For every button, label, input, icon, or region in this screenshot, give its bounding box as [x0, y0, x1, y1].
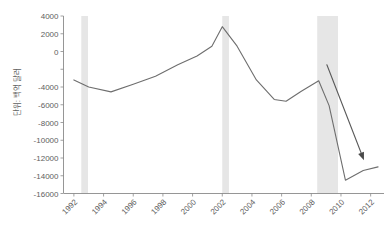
- recession-band: [317, 16, 338, 194]
- y-axis-tick-label: 2000: [41, 30, 59, 39]
- y-axis-title: 단위: 백억 달러: [12, 68, 22, 116]
- y-axis-tick-label: 0: [54, 48, 59, 57]
- chart-container: 400020000-4000-6000-8000-10000-12000-140…: [0, 0, 386, 230]
- x-axis-tick-label: 2010: [327, 197, 346, 216]
- x-axis-tick-label: 2000: [179, 197, 198, 216]
- y-axis-tick-label: -12000: [34, 154, 59, 163]
- x-axis-tick-label: 1996: [120, 197, 139, 216]
- recession-band: [222, 16, 229, 194]
- y-axis-tick-label: -4000: [38, 83, 59, 92]
- y-axis-tick-label: -14000: [34, 172, 59, 181]
- x-axis-tick-label: 2004: [238, 197, 257, 216]
- x-axis-tick-label: 1992: [60, 197, 79, 216]
- y-axis-tick-label: -6000: [38, 101, 59, 110]
- recession-band: [81, 16, 88, 194]
- x-axis-tick-label: 2006: [268, 197, 287, 216]
- x-axis-tick-label: 2012: [357, 197, 376, 216]
- y-axis-tick-label: -10000: [34, 136, 59, 145]
- y-axis-tick-label: 4000: [41, 12, 59, 21]
- y-axis: 400020000-4000-6000-8000-10000-12000-140…: [34, 12, 64, 199]
- y-axis-tick-label: -8000: [38, 119, 59, 128]
- x-axis-tick-label: 2002: [209, 197, 228, 216]
- recession-bands-group: [81, 16, 338, 194]
- y-axis-title-group: 단위: 백억 달러: [12, 68, 22, 116]
- x-axis-tick-label: 1994: [90, 197, 109, 216]
- line-chart: 400020000-4000-6000-8000-10000-12000-140…: [0, 0, 386, 230]
- y-axis-tick-label: -16000: [34, 190, 59, 199]
- x-axis-tick-label: 2008: [298, 197, 317, 216]
- x-axis-tick-label: 1998: [149, 197, 168, 216]
- x-axis: 1992199419961998200020022004200620082010…: [60, 194, 384, 217]
- x-tick-group: 1992199419961998200020022004200620082010…: [60, 194, 376, 217]
- annotation-arrow-head: [358, 152, 364, 161]
- y-tick-group: 400020000-4000-6000-8000-10000-12000-140…: [34, 12, 64, 199]
